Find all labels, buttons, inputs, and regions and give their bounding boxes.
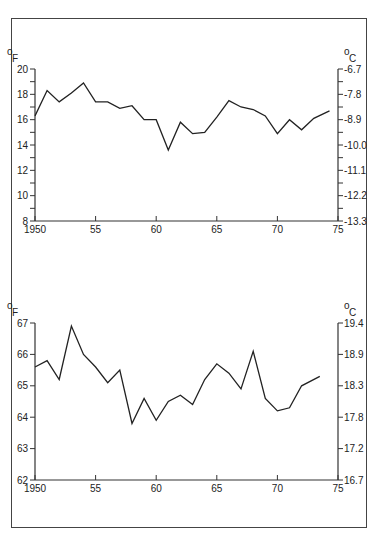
x-tick-label: 1950 <box>24 224 47 235</box>
y-tick-label-left: 16 <box>17 114 29 125</box>
y-tick-label-right: 17.8 <box>344 412 364 423</box>
x-tick-label: 1950 <box>24 483 47 494</box>
unit-label-f: F <box>12 307 18 318</box>
y-tick-label-left: 12 <box>17 165 29 176</box>
data-line-top <box>35 83 330 150</box>
x-tick-label: 70 <box>272 224 284 235</box>
y-tick-label-right: 17.2 <box>344 443 364 454</box>
y-tick-label-left: 65 <box>17 380 29 391</box>
top-chart: 8-13.310-12.212-11.114-10.016-8.918-7.82… <box>0 0 376 539</box>
y-tick-label-right: -13.3 <box>344 216 367 227</box>
y-tick-label-left: 20 <box>17 64 29 75</box>
unit-label-c: C <box>349 53 356 64</box>
x-tick-label: 75 <box>332 224 344 235</box>
x-tick-label: 70 <box>272 483 284 494</box>
y-tick-label-left: 64 <box>17 412 29 423</box>
y-tick-label-right: -8.9 <box>344 114 362 125</box>
data-line-bottom <box>35 326 320 423</box>
x-tick-label: 60 <box>151 483 163 494</box>
y-tick-label-right: -12.2 <box>344 190 367 201</box>
x-tick-label: 60 <box>151 224 163 235</box>
y-tick-label-right: 18.3 <box>344 380 364 391</box>
x-tick-label: 55 <box>90 483 102 494</box>
y-tick-label-left: 14 <box>17 140 29 151</box>
x-tick-label: 65 <box>211 483 223 494</box>
y-tick-label-right: 18.9 <box>344 349 364 360</box>
y-tick-label-left: 18 <box>17 89 29 100</box>
y-tick-label-right: 16.7 <box>344 475 364 486</box>
y-tick-label-right: 19.4 <box>344 318 364 329</box>
y-tick-label-left: 63 <box>17 443 29 454</box>
x-tick-label: 65 <box>211 224 223 235</box>
y-tick-label-right: -6.7 <box>344 64 362 75</box>
x-tick-label: 55 <box>90 224 102 235</box>
y-tick-label-left: 66 <box>17 349 29 360</box>
unit-label-c: C <box>349 307 356 318</box>
y-tick-label-right: -10.0 <box>344 140 367 151</box>
y-tick-label-left: 10 <box>17 190 29 201</box>
y-tick-label-left: 67 <box>17 318 29 329</box>
y-tick-label-right: -7.8 <box>344 89 362 100</box>
y-tick-label-right: -11.1 <box>344 165 366 176</box>
x-tick-label: 75 <box>332 483 344 494</box>
unit-label-f: F <box>12 53 18 64</box>
